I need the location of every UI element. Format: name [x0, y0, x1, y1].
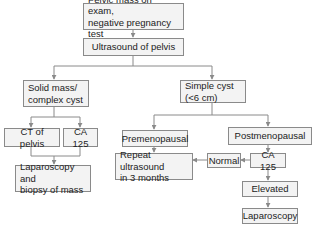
node-laparoscopy-biopsy: Laparoscopy and biopsy of mass [15, 165, 91, 192]
node-solid-mass-label: Solid mass/ complex cyst [28, 82, 83, 105]
node-simple-cyst-label: Simple cyst (<6 cm) [185, 80, 234, 103]
node-simple-cyst: Simple cyst (<6 cm) [180, 80, 246, 103]
node-start-label: Pelvic mass on exam, negative pregnancy … [88, 0, 179, 40]
node-start: Pelvic mass on exam, negative pregnancy … [83, 3, 184, 30]
node-postmenopausal: Postmenopausal [228, 127, 312, 145]
node-normal-label: Normal [209, 155, 240, 167]
node-ca125-right-label: CA 125 [253, 149, 283, 172]
node-ct-pelvis-label: CT of pelvis [9, 126, 55, 149]
node-solid-mass: Solid mass/ complex cyst [23, 80, 89, 107]
node-ca125-left-label: CA 125 [68, 126, 93, 149]
node-ca125-left: CA 125 [63, 128, 98, 147]
node-laparoscopy: Laparoscopy [242, 208, 298, 224]
node-laparoscopy-biopsy-label: Laparoscopy and biopsy of mass [20, 161, 86, 196]
node-repeat-ultrasound: Repeat ultrasound in 3 months [115, 153, 193, 180]
node-premenopausal-label: Premenopausal [122, 133, 189, 145]
node-repeat-ultrasound-label: Repeat ultrasound in 3 months [120, 149, 188, 184]
node-ultrasound-label: Ultrasound of pelvis [92, 41, 175, 53]
node-normal: Normal [207, 153, 241, 168]
node-elevated: Elevated [242, 181, 298, 197]
node-ultrasound: Ultrasound of pelvis [83, 38, 184, 56]
node-ca125-right: CA 125 [250, 153, 286, 168]
node-ct-pelvis: CT of pelvis [4, 128, 60, 147]
node-premenopausal: Premenopausal [122, 130, 188, 147]
node-elevated-label: Elevated [252, 183, 289, 195]
node-laparoscopy-label: Laparoscopy [243, 210, 297, 222]
node-postmenopausal-label: Postmenopausal [235, 130, 306, 142]
